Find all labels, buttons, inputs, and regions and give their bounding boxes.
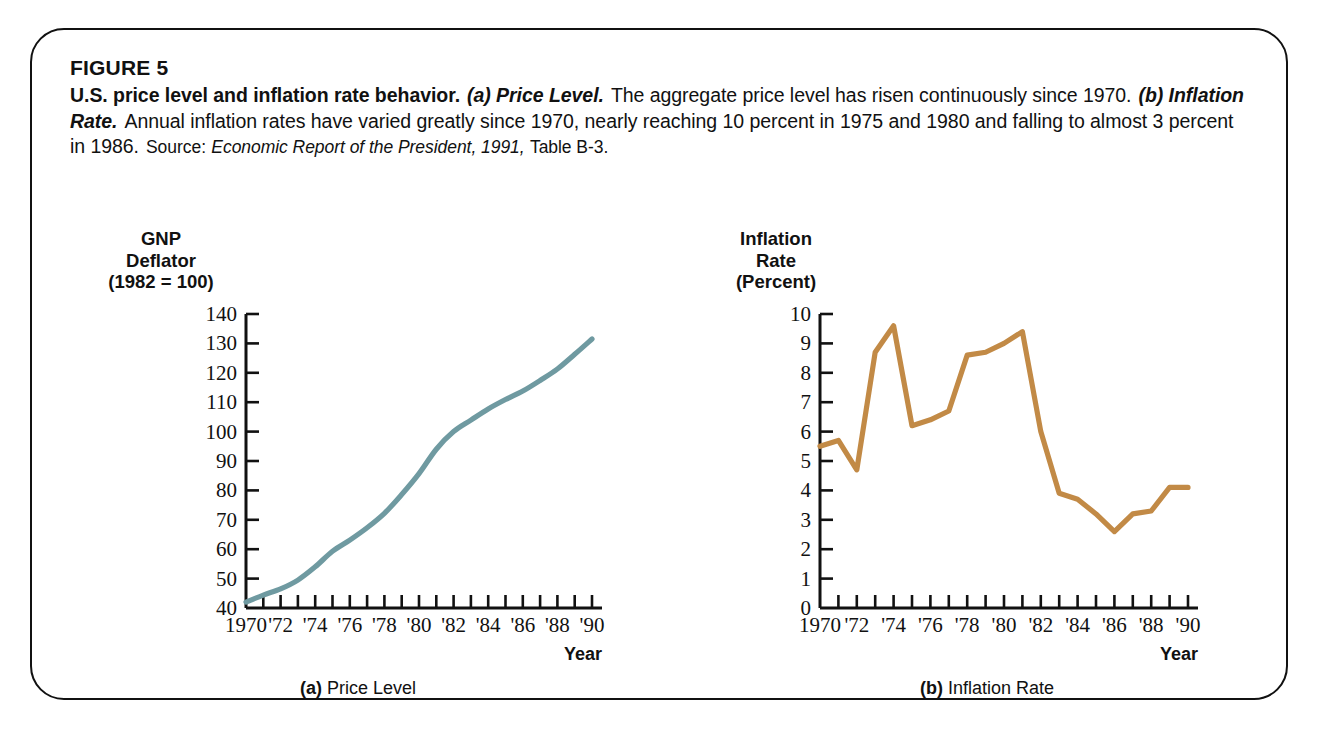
panel-a-subcaption: (a) Price Level	[300, 678, 416, 699]
x-axis-label: Year	[1160, 644, 1198, 664]
x-tick-label: '76	[337, 613, 362, 637]
x-tick-label: 1970	[799, 613, 841, 637]
price-level-chart: 4050607080901001101201301401970'72'74'76…	[68, 226, 688, 666]
x-tick-label: '72	[268, 613, 293, 637]
figure-number: FIGURE 5	[70, 56, 1250, 80]
caption-source-label: Source:	[146, 137, 206, 157]
y-tick-label: 3	[801, 508, 812, 532]
x-tick-label: '74	[881, 613, 906, 637]
x-tick-label: '82	[1028, 613, 1053, 637]
x-tick-label: '78	[955, 613, 980, 637]
y-tick-label: 120	[206, 361, 238, 385]
x-tick-label: '72	[844, 613, 869, 637]
y-tick-label: 80	[216, 478, 237, 502]
y-tick-label: 4	[801, 478, 812, 502]
y-tick-label: 9	[801, 331, 812, 355]
figure-card: FIGURE 5 U.S. price level and inflation …	[30, 28, 1288, 700]
y-tick-label: 90	[216, 449, 237, 473]
caption-part-a-label: (a) Price Level.	[467, 84, 604, 106]
caption-source-tail: Table B-3.	[530, 137, 608, 157]
y-tick-label: 7	[801, 390, 812, 414]
y-tick-label: 8	[801, 361, 812, 385]
y-tick-label: 50	[216, 567, 237, 591]
panel-b-subcaption: (b) Inflation Rate	[920, 678, 1054, 699]
panel-b-subcaption-text: Inflation Rate	[948, 678, 1054, 698]
x-tick-label: '80	[407, 613, 432, 637]
x-tick-label: '88	[545, 613, 570, 637]
y-tick-label: 1	[801, 567, 812, 591]
x-tick-label: '76	[918, 613, 943, 637]
y-tick-label: 100	[206, 420, 238, 444]
y-tick-label: 70	[216, 508, 237, 532]
y-tick-label: 2	[801, 537, 812, 561]
x-tick-label: '74	[303, 613, 328, 637]
caption-sentence-a: The aggregate price level has risen cont…	[611, 84, 1132, 106]
y-tick-label: 5	[801, 449, 812, 473]
x-tick-label: '84	[1065, 613, 1090, 637]
x-tick-label: 1970	[225, 613, 267, 637]
panel-a-subcaption-bold: (a)	[300, 678, 322, 698]
y-tick-label: 110	[206, 390, 237, 414]
panel-b-subcaption-bold: (b)	[920, 678, 943, 698]
x-tick-label: '90	[1176, 613, 1201, 637]
panel-a-subcaption-text: Price Level	[327, 678, 416, 698]
data-series-line	[820, 326, 1188, 532]
panel-inflation-rate: Inflation Rate (Percent) 012345678910197…	[692, 226, 1284, 696]
x-tick-label: '80	[992, 613, 1017, 637]
x-tick-label: '90	[580, 613, 605, 637]
x-tick-label: '82	[441, 613, 466, 637]
inflation-rate-chart: 0123456789101970'72'74'76'78'80'82'84'86…	[692, 226, 1284, 666]
panel-price-level: GNP Deflator (1982 = 100) 40506070809010…	[68, 226, 688, 696]
figure-caption: FIGURE 5 U.S. price level and inflation …	[70, 56, 1250, 161]
data-series-line	[246, 339, 592, 602]
y-tick-label: 6	[801, 420, 812, 444]
x-tick-label: '88	[1139, 613, 1164, 637]
figure-caption-text: U.S. price level and inflation rate beha…	[70, 83, 1250, 161]
x-tick-label: '86	[1102, 613, 1127, 637]
y-tick-label: 140	[206, 302, 238, 326]
y-tick-label: 60	[216, 537, 237, 561]
caption-source-italic: Economic Report of the President, 1991,	[211, 137, 524, 157]
y-tick-label: 130	[206, 331, 238, 355]
x-axis-label: Year	[564, 644, 602, 664]
x-tick-label: '78	[372, 613, 397, 637]
y-tick-label: 10	[790, 302, 811, 326]
x-tick-label: '84	[476, 613, 501, 637]
caption-title: U.S. price level and inflation rate beha…	[70, 84, 460, 106]
x-tick-label: '86	[510, 613, 535, 637]
